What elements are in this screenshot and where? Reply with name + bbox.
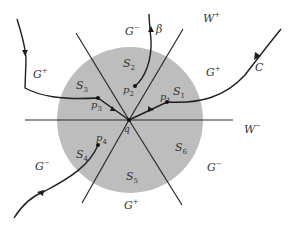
arrow-icon-beta [148, 26, 154, 32]
label-s6: S6 [175, 142, 187, 156]
label-s5: S5 [126, 171, 138, 185]
point-q [127, 118, 131, 122]
label-q: q [124, 125, 130, 134]
label-p1: p1 [160, 92, 171, 105]
label-w-minus: W− [244, 123, 261, 135]
label-s2: S2 [123, 58, 135, 72]
label-g-minus-top: G− [125, 25, 140, 37]
label-g-plus-left: G+ [33, 68, 48, 80]
diagram-canvas [0, 0, 292, 229]
label-g-plus-bottom: G+ [124, 199, 139, 211]
label-p2: p2 [123, 85, 134, 98]
label-g-plus-right: G+ [206, 66, 221, 78]
label-s3: S3 [76, 80, 88, 94]
label-beta: β [156, 24, 162, 35]
label-c: C [255, 62, 263, 73]
label-p4: p4 [96, 133, 107, 146]
label-w-plus: W+ [203, 12, 220, 24]
arrow-icon-lower-left [37, 190, 44, 196]
label-p3: p3 [91, 100, 102, 113]
label-g-minus-right: G− [207, 161, 222, 173]
arrow-icon-left-curve [22, 50, 28, 56]
label-g-minus-left: G− [35, 160, 50, 172]
phase-diagram: S1 S2 S3 S4 S5 S6 q p1 p2 p3 p4 G− G+ G+… [0, 0, 292, 229]
label-s1: S1 [173, 86, 185, 100]
label-s4: S4 [76, 149, 88, 163]
